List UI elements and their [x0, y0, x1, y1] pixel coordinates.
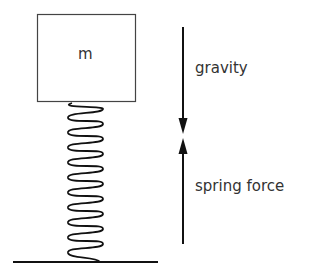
gravity-arrow — [179, 27, 188, 134]
spring-force-label: spring force — [195, 177, 284, 195]
mass-label: m — [78, 45, 93, 63]
spring — [68, 103, 103, 262]
gravity-label: gravity — [195, 59, 248, 77]
spring-force-arrow — [179, 138, 188, 244]
diagram-canvas — [0, 0, 309, 272]
mass-spring-diagram: m gravity spring force — [0, 0, 309, 272]
